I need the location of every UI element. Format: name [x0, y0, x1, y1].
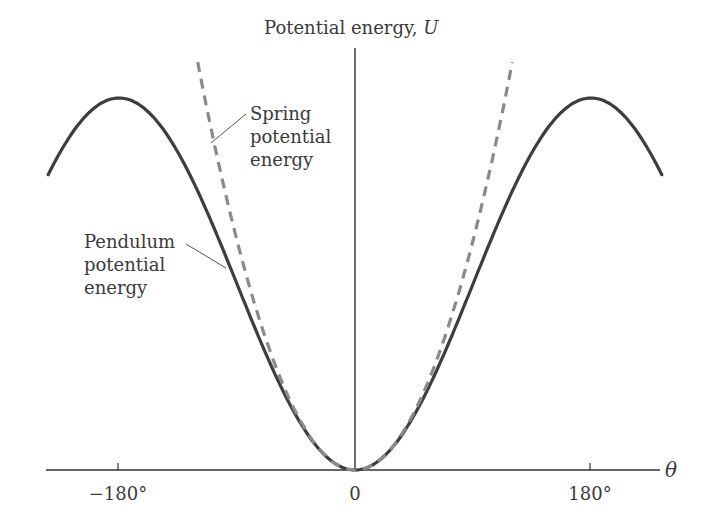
y-axis-label: Potential energy, U	[264, 17, 439, 38]
pendulum-leader-line	[186, 244, 226, 268]
tick-label-zero: 0	[349, 483, 360, 504]
spring-leader-line	[211, 114, 246, 143]
x-axis-symbol: θ	[665, 458, 677, 482]
pendulum-annotation: Pendulum potential energy	[84, 231, 181, 298]
tick-label-plus-180: 180°	[568, 483, 611, 504]
spring-annotation: Spring potential energy	[250, 103, 337, 170]
potential-energy-diagram: Potential energy, U θ −180° 0 180° Sprin…	[0, 0, 711, 526]
tick-label-minus-180: −180°	[89, 483, 147, 504]
